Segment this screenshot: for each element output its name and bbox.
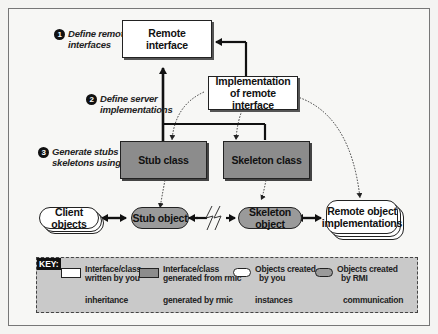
generated-arrow-stub-class (172, 92, 204, 140)
remote-object-implementations-node: Remote objectimplementations (326, 200, 398, 234)
step-2: 2Define server implementations (86, 94, 173, 116)
remote-interface-box: Remoteinterface (122, 20, 212, 58)
key-swatch-generated (139, 268, 159, 278)
key-label-generated: Interface/classgenerated from rmic (163, 265, 241, 284)
inheritance-arrow-impl-to-remote-interface (216, 42, 246, 76)
skeleton-class-box: Skeleton class (223, 141, 310, 179)
key-label-objects-by-rmi: Objects createdby RMI (337, 265, 398, 284)
network-break-icon (206, 206, 221, 230)
key-title: KEY: (37, 258, 61, 270)
key-swatch-objects-by-you (233, 268, 251, 277)
key-swatch-objects-by-rmi (315, 268, 333, 277)
key-label-objects-by-you: Objects createdby you (255, 265, 316, 284)
key-label-communication: communication (343, 296, 403, 305)
key-swatch-written-by-you (61, 268, 81, 278)
key-label-instances: instances (255, 296, 292, 305)
stub-object-node: Stub object (131, 207, 189, 229)
instance-arrow-skeleton-object (261, 180, 266, 200)
stub-class-box: Stub class (120, 141, 207, 179)
skeleton-object-node: Skeleton object (238, 207, 302, 229)
client-objects-node: Client objects (39, 207, 99, 229)
key-label-inheritance: inheritance (85, 296, 128, 305)
legend-key: KEY: Interface/classwritten by you Inter… (36, 257, 418, 313)
instance-arrow-stub-object (160, 180, 165, 208)
implementation-box: Implementationof remote interface (208, 76, 298, 110)
step-1: 1Define remote interfaces (54, 29, 129, 51)
key-label-generated-by-rmic: generated by rmic (163, 296, 233, 305)
key-label-written-by-you: Interface/classwritten by you (85, 265, 141, 284)
